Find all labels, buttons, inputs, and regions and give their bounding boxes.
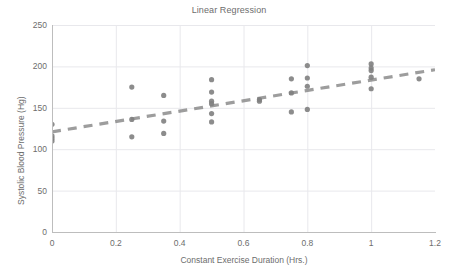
vertical-gridlines (53, 25, 436, 232)
y-tick-label: 250 (17, 20, 47, 30)
x-tick-label: 0.8 (292, 238, 322, 248)
x-axis-line (52, 232, 436, 233)
scatter-points (52, 61, 422, 143)
x-axis-title: Constant Exercise Duration (Hrs.) (52, 255, 436, 265)
x-tick-label: 0.4 (165, 238, 195, 248)
y-axis-line (52, 25, 53, 233)
x-tick-label: 1.2 (420, 238, 450, 248)
x-tick-label: 0 (37, 238, 67, 248)
x-tick-label: 0.2 (101, 238, 131, 248)
x-tick-label: 0.6 (229, 238, 259, 248)
chart-title: Linear Regression (0, 5, 458, 15)
x-tick-label: 1 (356, 238, 386, 248)
y-axis-title: Systolic Blood Pressure (Hg) (16, 96, 26, 205)
linear-regression-chart: Linear Regression 050100150200250 00.20.… (0, 0, 458, 274)
y-tick-label: 0 (17, 227, 47, 237)
plot-svg (52, 25, 435, 232)
plot-area (52, 25, 435, 232)
y-tick-label: 200 (17, 61, 47, 71)
